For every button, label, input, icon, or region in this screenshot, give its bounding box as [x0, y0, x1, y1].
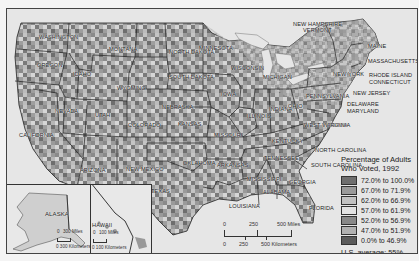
state-label-vermont: VERMONT	[303, 27, 332, 33]
state-label-arkansas: ARKANSAS	[217, 162, 248, 168]
legend-swatch	[341, 196, 357, 205]
map-legend: Percentage of Adults Who Voted, 1992 72.…	[341, 155, 417, 254]
us-average: U.S. average: 55%	[341, 248, 417, 254]
state-label-illinois: ILLINOIS	[247, 113, 271, 119]
legend-swatch	[341, 216, 357, 225]
hawaii-scale-bar	[93, 239, 107, 243]
state-label-south-dakota: SOUTH DAKOTA	[169, 74, 214, 80]
state-label-tennessee: TENNESSEE	[264, 155, 299, 161]
state-label-iowa: IOWA	[221, 91, 236, 97]
hawaii-scale-zero: 0	[93, 230, 96, 235]
legend-label: 72.0% to 100.0%	[361, 177, 414, 184]
alaska-scale-bar	[57, 238, 71, 242]
state-label-pennsylvania: PENNSYLVANIA	[306, 93, 349, 99]
state-label-colorado: COLORADO	[128, 122, 161, 128]
state-label-kentucky: KENTUCKY	[272, 138, 303, 144]
legend-item: 72.0% to 100.0%	[341, 175, 417, 185]
legend-item: 57.0% to 61.9%	[341, 205, 417, 215]
state-label-montana: MONTANA	[109, 46, 137, 52]
state-label-michigan: MICHIGAN	[263, 74, 292, 80]
alaska-scale-miles: 300 Miles	[63, 229, 83, 234]
scale-km-500: 500 Kilometers	[261, 241, 297, 247]
scale-km-0: 0	[223, 241, 226, 247]
state-label-california: CALIFORNIA	[19, 132, 54, 138]
legend-label: 52.0% to 56.9%	[361, 217, 410, 224]
legend-swatch	[341, 206, 357, 215]
legend-item: 62.0% to 66.9%	[341, 195, 417, 205]
hawaii-scale-miles: 100 Miles	[99, 230, 119, 235]
state-label-arizona: ARIZONA	[80, 167, 106, 173]
state-label-wisconsin: WISCONSIN	[231, 65, 264, 71]
hawaii-inset: HAWAII 0 100 Miles 0 100 Kilometers	[90, 184, 152, 254]
alaska-scale-km: 0 300 Kilometers	[56, 244, 90, 249]
map-frame: WASHINGTONOREGONIDAHOMONTANAWYOMINGNORTH…	[6, 8, 418, 254]
legend-title-line1: Percentage of Adults	[341, 155, 417, 164]
scale-miles-500: 500 Miles	[277, 221, 300, 227]
state-label-connecticut: CONNECTICUT	[369, 79, 411, 85]
legend-title-line2: Who Voted, 1992	[341, 164, 417, 173]
alaska-label: ALASKA	[45, 211, 69, 217]
alaska-inset: ALASKA 0 300 Miles 0 300 Kilometers	[6, 184, 92, 254]
state-label-nebraska: NEBRASKA	[162, 104, 193, 110]
state-label-wyoming: WYOMING	[117, 85, 146, 91]
state-label-mississippi: MISSISSIPPI	[247, 176, 281, 182]
state-label-new-jersey: NEW JERSEY	[353, 90, 390, 96]
state-label-louisiana: LOUISIANA	[229, 203, 260, 209]
state-label-maine: MAINE	[368, 43, 386, 49]
legend-label: 47.0% to 51.9%	[361, 227, 410, 234]
state-label-utah: UTAH	[95, 112, 110, 118]
state-label-washington: WASHINGTON	[39, 34, 78, 40]
state-label-massachusetts: MASSACHUSETTS	[368, 58, 418, 64]
legend-item: 67.0% to 71.9%	[341, 185, 417, 195]
state-label-oklahoma: OKLAHOMA	[183, 160, 216, 166]
legend-label: 0.0% to 46.9%	[361, 237, 407, 244]
state-label-texas: TEXAS	[151, 188, 170, 194]
legend-swatch	[341, 176, 357, 185]
state-label-maryland: MARYLAND	[347, 108, 379, 114]
scale-miles-0: 0	[223, 221, 226, 227]
legend-label: 67.0% to 71.9%	[361, 187, 410, 194]
legend-item: 52.0% to 56.9%	[341, 215, 417, 225]
hawaii-label: HAWAII	[92, 222, 112, 228]
legend-swatch	[341, 186, 357, 195]
legend-item: 0.0% to 46.9%	[341, 235, 417, 245]
scale-km-250: 250	[239, 241, 248, 247]
legend-label: 62.0% to 66.9%	[361, 197, 410, 204]
state-label-ohio: OHIO	[288, 103, 303, 109]
state-label-north-carolina: NORTH CAROLINA	[315, 147, 366, 153]
scale-bar: 0 250 500 Miles 0 250 500 Kilometers	[217, 221, 307, 251]
state-label-oregon: OREGON	[37, 62, 62, 68]
state-label-idaho: IDAHO	[73, 71, 91, 77]
state-label-new-york: NEW YORK	[333, 71, 364, 77]
state-label-kansas: KANSAS	[178, 121, 201, 127]
state-label-delaware: DELAWARE	[347, 101, 379, 107]
state-label-florida: FLORIDA	[309, 205, 334, 211]
state-label-virginia: VIRGINIA	[325, 122, 350, 128]
state-label-new-mexico: NEW MEXICO	[126, 166, 164, 172]
alaska-scale-zero: 0	[57, 229, 60, 234]
legend-swatch	[341, 236, 357, 245]
state-label-nevada: NEVADA	[55, 108, 78, 114]
state-label-alabama: ALABAMA	[263, 189, 290, 195]
state-label-georgia: GEORGIA	[289, 179, 316, 185]
legend-swatch	[341, 226, 357, 235]
state-label-minnesota: MINNESOTA	[199, 45, 233, 51]
state-label-rhode-island: RHODE ISLAND	[369, 72, 412, 78]
legend-label: 57.0% to 61.9%	[361, 207, 410, 214]
scale-miles-250: 250	[249, 221, 258, 227]
state-label-missouri: MISSOURI	[214, 132, 242, 138]
hawaii-scale-km: 0 100 Kilometers	[92, 245, 126, 250]
legend-item: 47.0% to 51.9%	[341, 225, 417, 235]
